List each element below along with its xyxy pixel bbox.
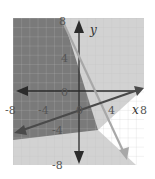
y-tick-8: 8 [59, 15, 66, 28]
x-tick-neg4: -4 [38, 104, 49, 117]
x-tick-8: 8 [140, 104, 147, 117]
x-tick-4: 4 [108, 104, 115, 117]
y-axis-label: y [89, 23, 97, 37]
inequality-graph: 8 4 0 -4 -8 -8 -4 0 4 8 y x [0, 0, 155, 179]
y-tick-0: 0 [61, 86, 68, 99]
y-tick-4: 4 [61, 52, 68, 65]
x-tick-neg8: -8 [5, 104, 16, 117]
x-tick-0: 0 [76, 104, 83, 117]
y-tick-neg8: -8 [52, 159, 63, 172]
x-axis-label: x [132, 103, 139, 117]
y-tick-neg4: -4 [52, 124, 63, 137]
